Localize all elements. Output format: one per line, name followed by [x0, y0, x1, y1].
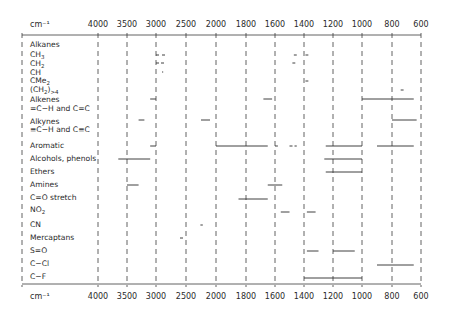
- tick-label-bottom: 1800: [236, 292, 256, 301]
- tick-label-top: 3500: [117, 20, 137, 29]
- bottom-axis-tick-labels: 4000350030002500200018001600140012001000…: [88, 292, 429, 301]
- tick-label-top: 1800: [236, 20, 256, 29]
- label-no2: NO2: [30, 205, 45, 215]
- tick-label-bottom: 1200: [323, 292, 343, 301]
- tick-label-bottom: 2000: [206, 292, 226, 301]
- top-axis-tick-labels: 4000350030002500200018001600140012001000…: [88, 20, 429, 29]
- tick-label-bottom: 600: [413, 292, 428, 301]
- tick-label-bottom: 2500: [176, 292, 196, 301]
- tick-label-bottom: 4000: [88, 292, 108, 301]
- tick-label-top: 800: [384, 20, 399, 29]
- tick-label-top: 1200: [323, 20, 343, 29]
- tick-label-top: 2500: [176, 20, 196, 29]
- label-so: S=O: [30, 246, 47, 255]
- tick-label-bottom: 800: [384, 292, 399, 301]
- tick-label-bottom: 3000: [146, 292, 166, 301]
- gridlines: [98, 33, 421, 287]
- absorption-ranges: [118, 55, 416, 278]
- label-alkenes: Alkenes: [30, 95, 60, 104]
- tick-label-top: 1400: [294, 20, 314, 29]
- tick-label-top: 4000: [88, 20, 108, 29]
- label-amines: Amines: [30, 180, 58, 189]
- label-ethers: Ethers: [30, 167, 54, 176]
- label-ch2n: (CH2)>4: [30, 85, 59, 95]
- top-unit-label: cm⁻¹: [30, 20, 50, 29]
- tick-label-top: 600: [413, 20, 428, 29]
- label-alcohols: Alcohols, phenols: [30, 154, 96, 163]
- tick-label-top: 2000: [206, 20, 226, 29]
- tick-label-top: 1000: [352, 20, 372, 29]
- bottom-unit-label: cm⁻¹: [30, 292, 50, 301]
- tick-label-top: 1600: [265, 20, 285, 29]
- label-alkynes-sub: ≡C−H and C≡C: [30, 125, 90, 134]
- tick-label-bottom: 1000: [352, 292, 372, 301]
- tick-label-top: 3000: [146, 20, 166, 29]
- tick-label-bottom: 1600: [265, 292, 285, 301]
- label-ccl: C−Cl: [30, 259, 49, 268]
- label-co-stretch: C=O stretch: [30, 193, 77, 202]
- label-cf: C−F: [30, 272, 46, 281]
- label-alkenes-sub: =C−H and C=C: [30, 104, 90, 113]
- row-labels: Alkanes CH3 CH2 CH CMe2 (CH2)>4 Alkenes …: [30, 40, 96, 281]
- tick-label-bottom: 1400: [294, 292, 314, 301]
- label-alkanes: Alkanes: [30, 40, 60, 49]
- label-cn: CN: [30, 220, 41, 229]
- tick-label-bottom: 3500: [117, 292, 137, 301]
- label-mercaptans: Mercaptans: [30, 233, 74, 242]
- ir-correlation-chart: cm⁻¹ 40003500300025002000180016001400120…: [0, 0, 452, 313]
- label-aromatic: Aromatic: [30, 141, 64, 150]
